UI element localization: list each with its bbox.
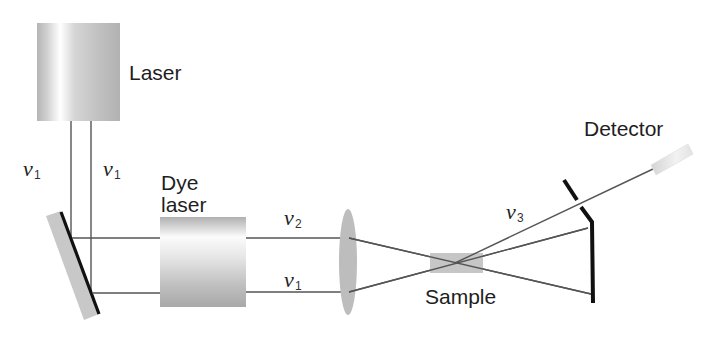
beam-label-laser-left: ν 1 bbox=[23, 156, 41, 182]
svg-text:1: 1 bbox=[34, 168, 41, 182]
output-mirror bbox=[564, 180, 593, 303]
sample-label: Sample bbox=[425, 285, 496, 308]
svg-text:ν: ν bbox=[23, 156, 33, 181]
beam-label-nu2: ν 2 bbox=[284, 205, 302, 231]
dye-laser-body bbox=[160, 217, 246, 307]
sample: Sample bbox=[349, 228, 591, 308]
focusing-lens bbox=[339, 209, 357, 315]
detector: Detector bbox=[584, 117, 693, 175]
detector-label: Detector bbox=[584, 117, 663, 140]
mirror-upper-segment bbox=[564, 180, 577, 200]
detector-body bbox=[651, 144, 693, 175]
svg-text:2: 2 bbox=[295, 217, 302, 231]
svg-text:ν: ν bbox=[506, 199, 516, 224]
laser-label: Laser bbox=[129, 61, 182, 84]
svg-text:ν: ν bbox=[284, 205, 294, 230]
laser-body bbox=[37, 23, 120, 121]
mirror-lower-segment bbox=[581, 207, 593, 303]
svg-text:1: 1 bbox=[295, 279, 302, 293]
svg-text:1: 1 bbox=[114, 168, 121, 182]
svg-text:3: 3 bbox=[517, 211, 524, 225]
beam-nu3-signal bbox=[455, 169, 653, 263]
dye-laser-label-line1: Dye bbox=[161, 171, 198, 194]
beam-label-nu1-lower: ν 1 bbox=[284, 267, 302, 293]
beam-label-nu3: ν 3 bbox=[506, 199, 524, 225]
optical-setup-diagram: Laser ν 1 ν 1 Dye laser ν 2 ν 1 bbox=[0, 0, 720, 338]
svg-text:ν: ν bbox=[284, 267, 294, 292]
laser: Laser bbox=[37, 23, 182, 121]
beam-label-laser-right: ν 1 bbox=[103, 156, 121, 182]
dye-laser-label-line2: laser bbox=[161, 193, 207, 216]
dye-laser: Dye laser bbox=[160, 171, 246, 307]
svg-text:ν: ν bbox=[103, 156, 113, 181]
